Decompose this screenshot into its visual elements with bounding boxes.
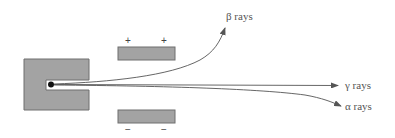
minus-sign-right: − — [161, 125, 167, 135]
positive-plate — [118, 47, 175, 60]
plus-sign-right: + — [161, 36, 167, 46]
radioactive-source — [48, 82, 54, 88]
alpha-rays-label: α rays — [345, 101, 372, 112]
beta-rays-label: β rays — [226, 11, 253, 22]
negative-plate — [118, 110, 175, 123]
alpha-ray-path — [54, 85, 341, 106]
gamma-rays-label: γ rays — [345, 80, 371, 91]
minus-sign-left: − — [125, 125, 131, 135]
radiation-deflection-diagram — [0, 0, 395, 138]
plus-sign-left: + — [125, 36, 131, 46]
